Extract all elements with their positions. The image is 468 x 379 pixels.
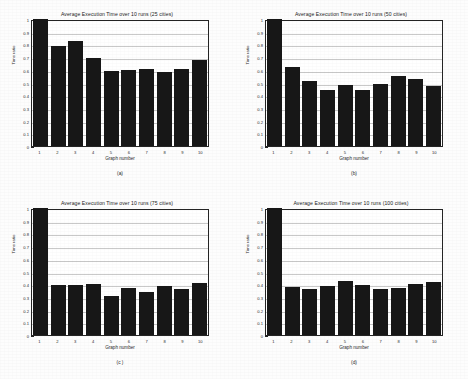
chart-panel-d: Average Execution Time over 10 runs (100…: [234, 189, 468, 379]
y-tick-label: 0.4: [23, 283, 29, 288]
y-tick-label: 0.4: [257, 283, 263, 288]
y-tick-label: 0.6: [23, 68, 29, 73]
bar: [121, 70, 136, 146]
y-tick-label: 0.5: [257, 270, 263, 275]
y-tick-label: 0.6: [257, 68, 263, 73]
y-tick-label: 0.4: [23, 94, 29, 99]
y-tick-label: 0.8: [257, 232, 263, 237]
y-tick-label: 0.9: [23, 219, 29, 224]
y-tick-label: 0.3: [23, 106, 29, 111]
panel-caption: (d): [265, 360, 443, 365]
y-tick-label: 0.2: [23, 308, 29, 313]
bar: [391, 76, 406, 146]
y-tick-label: 0: [27, 334, 29, 339]
chart-panel-c: Average Execution Time over 10 runs (75 …: [0, 189, 234, 379]
bar: [157, 72, 172, 146]
bar: [355, 285, 370, 335]
y-tick-label: 0.9: [257, 219, 263, 224]
y-tick-label: 0.5: [23, 81, 29, 86]
y-tick-label: 0.3: [23, 295, 29, 300]
bar: [373, 289, 388, 335]
bar: [285, 287, 300, 335]
panel-title: Average Execution Time over 10 runs (50 …: [234, 11, 468, 17]
y-tick-label: 1: [261, 18, 263, 23]
bar: [68, 285, 83, 335]
bar: [302, 289, 317, 335]
bar: [86, 58, 101, 146]
panel-title: Average Execution Time over 10 runs (75 …: [0, 200, 234, 206]
plot-area: [31, 209, 209, 336]
bar: [192, 60, 207, 146]
y-axis-label: Time ratio: [245, 46, 250, 65]
y-tick-label: 0.7: [23, 245, 29, 250]
panel-title: Average Execution Time over 10 runs (100…: [234, 200, 468, 206]
y-tick-label: 0: [261, 334, 263, 339]
y-tick-label: 0.3: [257, 106, 263, 111]
y-tick-label: 0.9: [257, 30, 263, 35]
bar: [86, 284, 101, 335]
y-tick-label: 0.1: [23, 132, 29, 137]
y-tick-label: 0.2: [23, 119, 29, 124]
y-tick-label: 0.6: [23, 257, 29, 262]
y-tick-label: 0.8: [23, 232, 29, 237]
bar: [51, 46, 66, 146]
y-axis-label: Time ratio: [245, 235, 250, 254]
y-tick-label: 0: [27, 145, 29, 150]
bar: [104, 71, 119, 146]
x-axis-label: Graph number: [31, 345, 209, 350]
bar: [426, 282, 441, 335]
y-tick-label: 0.5: [23, 270, 29, 275]
bar: [267, 208, 282, 335]
y-tick-label: 0.1: [257, 321, 263, 326]
bar: [33, 19, 48, 146]
chart-panel-b: Average Execution Time over 10 runs (50 …: [234, 0, 468, 189]
y-tick-label: 0.1: [23, 321, 29, 326]
x-axis-label: Graph number: [31, 156, 209, 161]
bar-series: [266, 210, 442, 335]
y-tick-label: 1: [27, 207, 29, 212]
bar: [320, 286, 335, 335]
bar: [338, 85, 353, 146]
y-tick-label: 0.8: [23, 43, 29, 48]
bar: [426, 86, 441, 146]
panel-caption: (b): [265, 171, 443, 176]
y-tick-label: 0.2: [257, 308, 263, 313]
bar: [157, 286, 172, 335]
y-tick-label: 0.3: [257, 295, 263, 300]
bar: [391, 288, 406, 335]
y-tick-label: 0.7: [23, 56, 29, 61]
bar: [285, 67, 300, 146]
bar: [192, 283, 207, 335]
bar: [320, 90, 335, 147]
bar: [408, 79, 423, 146]
bar: [104, 296, 119, 335]
chart-panel-a: Average Execution Time over 10 runs (25 …: [0, 0, 234, 189]
plot-area: [31, 20, 209, 147]
y-tick-label: 0: [261, 145, 263, 150]
bar: [121, 288, 136, 335]
panel-title: Average Execution Time over 10 runs (25 …: [0, 11, 234, 17]
bar: [33, 208, 48, 335]
y-tick-label: 0.9: [23, 30, 29, 35]
y-tick-label: 1: [27, 18, 29, 23]
bar: [408, 284, 423, 335]
y-tick-label: 0.2: [257, 119, 263, 124]
panel-caption: (a): [31, 171, 209, 176]
panel-caption: (c ): [31, 360, 209, 365]
bar: [68, 41, 83, 146]
bar: [139, 292, 154, 335]
bar-series: [32, 210, 208, 335]
bar: [355, 90, 370, 146]
y-tick-label: 0.4: [257, 94, 263, 99]
bar: [338, 281, 353, 335]
x-axis-label: Graph number: [265, 156, 443, 161]
y-tick-label: 0.5: [257, 81, 263, 86]
bar: [51, 285, 66, 335]
y-tick-label: 1: [261, 207, 263, 212]
bar: [267, 19, 282, 146]
bar: [174, 69, 189, 146]
plot-area: [265, 209, 443, 336]
y-tick-label: 0.6: [257, 257, 263, 262]
bar: [139, 69, 154, 146]
x-axis-label: Graph number: [265, 345, 443, 350]
